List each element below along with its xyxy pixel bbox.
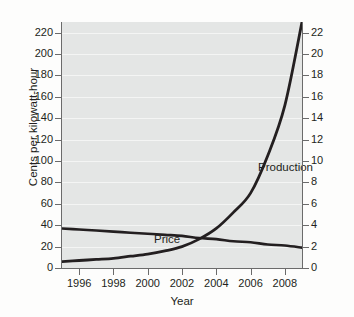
- right-tick-mark: [303, 204, 309, 205]
- left-axis-title: Cents per kilowatt-hour: [27, 42, 39, 212]
- series-curves: [62, 22, 302, 268]
- left-tick-label: 220: [7, 27, 53, 38]
- price-line: [62, 228, 302, 247]
- left-tick-mark: [55, 225, 61, 226]
- right-tick-mark: [303, 161, 309, 162]
- right-tick-label: 2: [311, 241, 317, 252]
- right-tick-mark: [303, 182, 309, 183]
- solar-price-production-chart: Price Production 02040608010012014016018…: [0, 0, 354, 317]
- right-tick-label: 4: [311, 219, 317, 230]
- right-tick-mark: [303, 140, 309, 141]
- left-tick-mark: [55, 182, 61, 183]
- right-tick-mark: [303, 118, 309, 119]
- left-tick-mark: [55, 140, 61, 141]
- x-tick-mark: [79, 269, 80, 275]
- left-tick-mark: [55, 268, 61, 269]
- right-tick-label: 12: [311, 134, 323, 145]
- left-tick-mark: [55, 54, 61, 55]
- right-tick-mark: [303, 33, 309, 34]
- x-tick-label: 2008: [265, 278, 305, 289]
- right-tick-label: 0: [311, 262, 317, 273]
- left-tick-mark: [55, 247, 61, 248]
- x-tick-mark: [148, 269, 149, 275]
- production-line: [62, 22, 302, 262]
- left-tick-mark: [55, 33, 61, 34]
- x-tick-mark: [285, 269, 286, 275]
- left-tick-label: 0: [7, 262, 53, 273]
- left-tick-mark: [55, 75, 61, 76]
- right-tick-mark: [303, 268, 309, 269]
- x-axis-title: Year: [62, 295, 302, 307]
- left-tick-mark: [55, 204, 61, 205]
- left-tick-mark: [55, 161, 61, 162]
- x-tick-mark: [216, 269, 217, 275]
- right-tick-mark: [303, 225, 309, 226]
- right-tick-mark: [303, 247, 309, 248]
- plot-area: Price Production: [62, 22, 302, 268]
- left-tick-label: 40: [7, 219, 53, 230]
- x-tick-mark: [251, 269, 252, 275]
- left-tick-mark: [55, 97, 61, 98]
- right-tick-label: 18: [311, 69, 323, 80]
- left-tick-label: 20: [7, 241, 53, 252]
- right-tick-label: 22: [311, 27, 323, 38]
- right-tick-mark: [303, 97, 309, 98]
- right-tick-mark: [303, 54, 309, 55]
- right-tick-label: 8: [311, 176, 317, 187]
- right-tick-label: 20: [311, 48, 323, 59]
- right-tick-label: 10: [311, 155, 323, 166]
- right-axis-line: [302, 22, 303, 269]
- right-tick-label: 16: [311, 91, 323, 102]
- right-tick-label: 14: [311, 112, 323, 123]
- left-tick-mark: [55, 118, 61, 119]
- price-series-label: Price: [154, 233, 180, 245]
- x-tick-mark: [113, 269, 114, 275]
- production-series-label: Production: [258, 161, 313, 173]
- left-axis-line: [61, 22, 62, 269]
- right-tick-mark: [303, 75, 309, 76]
- x-tick-mark: [182, 269, 183, 275]
- right-tick-label: 6: [311, 198, 317, 209]
